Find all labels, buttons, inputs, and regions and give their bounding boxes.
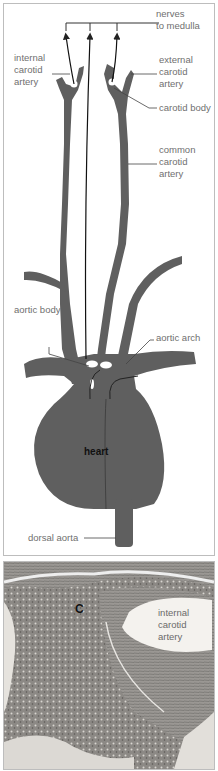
- label-aortic-arch: aortic arch: [156, 332, 200, 344]
- heart-shape: [24, 351, 196, 547]
- label-internal-carotid-artery: internal carotid artery: [14, 52, 45, 88]
- label-internal-carotid-artery-micro: internal carotid artery: [158, 607, 189, 643]
- label-nerves-to-medulla: nerves to medulla: [156, 8, 200, 32]
- label-dorsal-aorta: dorsal aorta: [28, 532, 78, 544]
- label-heart: heart: [84, 446, 108, 457]
- micrograph-image: [4, 562, 214, 769]
- label-external-carotid-artery: external carotid artery: [159, 54, 193, 90]
- left-carotid-vessel: [24, 66, 84, 384]
- label-carotid-body: carotid body: [159, 102, 211, 114]
- label-c: C: [75, 602, 84, 616]
- label-aortic-body: aortic body: [14, 304, 60, 316]
- histology-micrograph-panel: C internal carotid artery: [3, 561, 215, 770]
- label-common-carotid-artery: common carotid artery: [159, 144, 195, 180]
- anatomy-diagram-panel: nerves to medulla internal carotid arter…: [3, 3, 215, 556]
- nerves-bracket: [66, 23, 159, 31]
